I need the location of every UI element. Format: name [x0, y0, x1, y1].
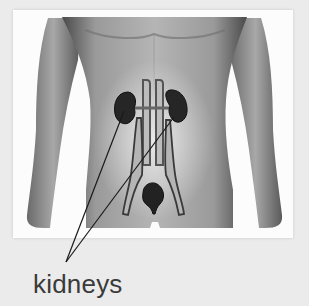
left-kidney	[115, 92, 136, 124]
kidneys-label: kidneys	[33, 269, 123, 300]
torso-illustration	[0, 0, 309, 306]
right-arm	[229, 18, 282, 228]
left-arm	[27, 18, 80, 228]
